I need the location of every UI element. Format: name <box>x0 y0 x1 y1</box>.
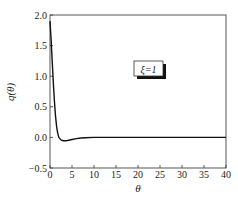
x-tick-label: 40 <box>221 169 231 180</box>
y-tick-label: 1.5 <box>35 40 48 51</box>
y-axis-label: q(θ) <box>4 83 17 102</box>
y-tick-label: 2.0 <box>35 10 48 21</box>
axes: 0510152025303540−0.50.00.51.01.52.0 <box>29 10 231 181</box>
x-tick-label: 0 <box>48 169 53 180</box>
x-tick-label: 25 <box>155 169 165 180</box>
x-tick-label: 10 <box>89 169 99 180</box>
x-tick-label: 5 <box>70 169 75 180</box>
y-tick-label: −0.5 <box>29 163 47 174</box>
x-tick-label: 20 <box>133 169 143 180</box>
x-axis-label: θ <box>135 182 141 194</box>
plot-frame <box>50 15 226 168</box>
annotation-box: ξ=1 <box>134 61 166 79</box>
series-line <box>50 21 226 141</box>
y-tick-label: 0.5 <box>35 101 48 112</box>
line-chart: 0510152025303540−0.50.00.51.01.52.0 ξ=1 … <box>0 0 238 198</box>
y-tick-label: 0.0 <box>35 132 48 143</box>
chart-canvas: 0510152025303540−0.50.00.51.01.52.0 ξ=1 … <box>0 0 238 198</box>
y-tick-label: 1.0 <box>35 71 48 82</box>
x-tick-label: 15 <box>111 169 121 180</box>
x-tick-label: 35 <box>199 169 209 180</box>
x-tick-label: 30 <box>177 169 187 180</box>
annotation-label: ξ=1 <box>140 64 156 76</box>
data-series <box>50 21 226 141</box>
